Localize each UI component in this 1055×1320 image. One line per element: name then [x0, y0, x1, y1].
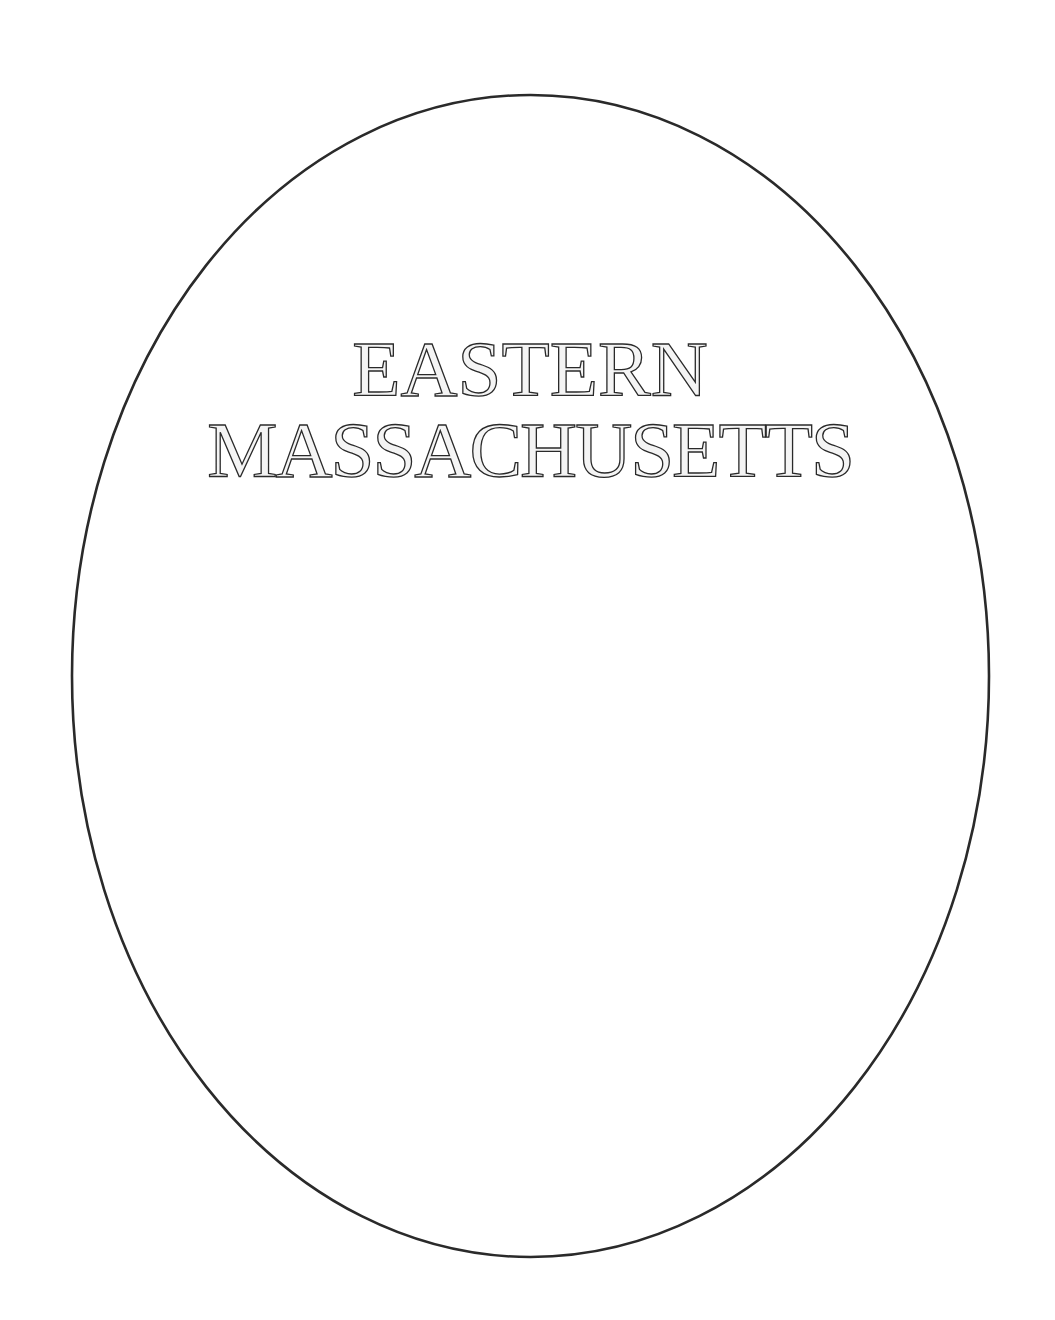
oval-frame: [0, 0, 1055, 1320]
oval-border: [72, 95, 989, 1257]
title-line-eastern: EASTERN: [0, 329, 1055, 408]
title-line-massachusetts: MASSACHUSETTS: [0, 410, 1055, 489]
title-page: EASTERN MASSACHUSETTS: [0, 0, 1055, 1320]
